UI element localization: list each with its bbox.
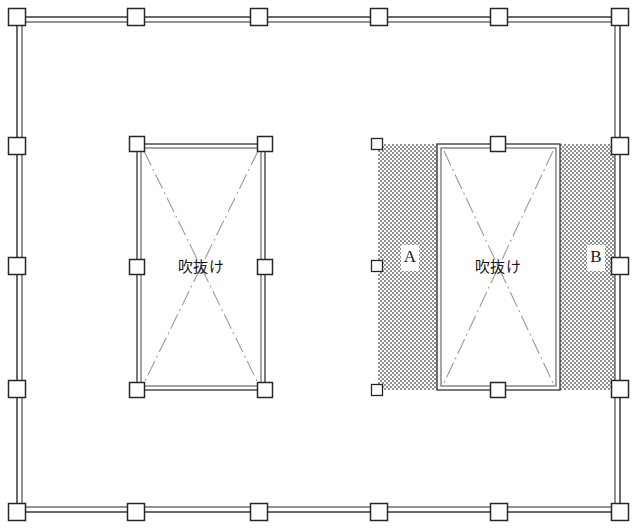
column-bottom-3 bbox=[371, 504, 388, 521]
void-left-label: 吹抜け bbox=[178, 258, 225, 276]
column-top-0 bbox=[9, 9, 26, 26]
column-left-1 bbox=[9, 138, 26, 155]
zone-a-edge-columns-1 bbox=[372, 261, 383, 272]
column-top-1 bbox=[128, 9, 145, 26]
floor-plan-drawing: 吹抜け吹抜けAB bbox=[0, 0, 637, 532]
canvas-background bbox=[0, 0, 637, 532]
column-top-5 bbox=[612, 9, 629, 26]
column-top-4 bbox=[491, 9, 508, 26]
void-left-column-3 bbox=[258, 260, 273, 275]
column-top-3 bbox=[371, 9, 388, 26]
zone-a-edge-columns-0 bbox=[372, 139, 383, 150]
column-bottom-5 bbox=[612, 504, 629, 521]
void-right-column-0 bbox=[491, 137, 506, 152]
floor-plan-canvas: 吹抜け吹抜けAB bbox=[0, 0, 637, 532]
zone-a-edge-columns-2 bbox=[372, 385, 383, 396]
column-bottom-4 bbox=[491, 504, 508, 521]
void-left-column-1 bbox=[258, 137, 273, 152]
column-right-1 bbox=[612, 138, 629, 155]
void-right-label: 吹抜け bbox=[475, 258, 522, 276]
zone-a-label: A bbox=[404, 247, 417, 266]
column-top-2 bbox=[251, 9, 268, 26]
void-left-column-4 bbox=[130, 383, 145, 398]
void-left-column-2 bbox=[130, 260, 145, 275]
void-left-column-5 bbox=[258, 383, 273, 398]
column-bottom-2 bbox=[251, 504, 268, 521]
zone-b-label: B bbox=[590, 247, 601, 266]
void-left-column-0 bbox=[130, 137, 145, 152]
column-left-3 bbox=[9, 381, 26, 398]
column-right-2 bbox=[612, 258, 629, 275]
column-left-2 bbox=[9, 258, 26, 275]
void-right-column-1 bbox=[491, 383, 506, 398]
column-right-3 bbox=[612, 381, 629, 398]
column-bottom-1 bbox=[128, 504, 145, 521]
column-bottom-0 bbox=[9, 504, 26, 521]
